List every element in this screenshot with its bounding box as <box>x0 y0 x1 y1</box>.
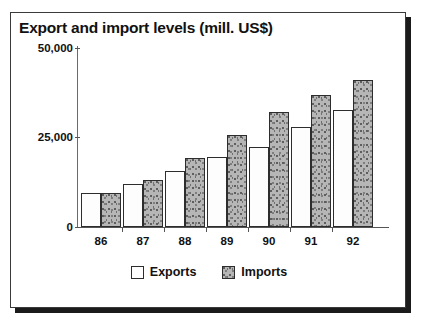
x-tick-mark <box>290 228 291 232</box>
x-tick-mark <box>122 228 123 232</box>
y-tick-label-50000: 50,000 <box>11 42 73 54</box>
bar-imports-92 <box>353 80 373 227</box>
legend-label-exports: Exports <box>150 265 197 279</box>
x-tick-label-86: 86 <box>95 235 108 247</box>
x-tick-label-92: 92 <box>347 235 360 247</box>
chart-screenshot: Export and import levels (mill. US$) 50,… <box>0 0 426 326</box>
x-tick-label-87: 87 <box>137 235 150 247</box>
y-tick-mark <box>75 48 80 49</box>
bar-imports-91 <box>311 95 331 227</box>
bar-imports-89 <box>227 135 247 227</box>
chart-card: Export and import levels (mill. US$) 50,… <box>10 12 406 308</box>
x-tick-label-90: 90 <box>263 235 276 247</box>
stippled-square-icon <box>222 266 235 279</box>
bar-imports-88 <box>185 158 205 227</box>
legend-label-imports: Imports <box>241 265 287 279</box>
x-tick-mark <box>248 228 249 232</box>
bar-exports-87 <box>123 184 143 227</box>
bar-exports-92 <box>333 110 353 227</box>
x-tick-label-88: 88 <box>179 235 192 247</box>
bar-imports-86 <box>101 193 121 227</box>
bar-exports-86 <box>81 193 101 227</box>
bar-exports-90 <box>249 147 269 227</box>
white-square-icon <box>131 266 144 279</box>
x-axis-line <box>77 227 389 228</box>
x-tick-label-89: 89 <box>221 235 234 247</box>
x-tick-mark <box>164 228 165 232</box>
x-tick-mark <box>332 228 333 232</box>
bar-exports-89 <box>207 157 227 227</box>
y-tick-label-25000: 25,000 <box>11 131 73 143</box>
bar-exports-91 <box>291 127 311 227</box>
bar-imports-87 <box>143 180 163 227</box>
bar-imports-90 <box>269 112 289 227</box>
x-tick-mark <box>206 228 207 232</box>
bar-exports-88 <box>165 171 185 227</box>
y-tick-mark <box>75 137 80 138</box>
legend-item-imports: Imports <box>222 265 287 279</box>
x-tick-label-91: 91 <box>305 235 318 247</box>
chart-legend: Exports Imports <box>11 265 407 279</box>
legend-item-exports: Exports <box>131 265 197 279</box>
y-tick-label-0: 0 <box>11 221 73 233</box>
y-tick-mark <box>75 227 80 228</box>
